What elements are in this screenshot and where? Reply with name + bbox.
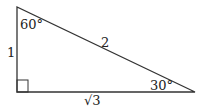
bottom-side-label: √3 — [84, 93, 101, 108]
triangle-diagram: 60° 2 1 30° √3 — [0, 0, 203, 108]
angle-30-label: 30° — [150, 78, 173, 93]
right-angle-marker — [17, 80, 28, 92]
hypotenuse-label: 2 — [101, 35, 109, 50]
angle-60-label: 60° — [20, 17, 43, 32]
left-side-label: 1 — [7, 45, 15, 60]
